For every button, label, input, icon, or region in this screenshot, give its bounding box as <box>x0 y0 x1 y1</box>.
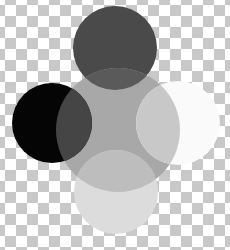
checkerboard-background <box>0 0 230 250</box>
circles-canvas <box>0 0 230 250</box>
